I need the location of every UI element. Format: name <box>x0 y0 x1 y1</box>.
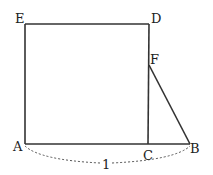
label-C: C <box>143 148 153 163</box>
dimension-arc-left <box>25 146 100 163</box>
geometry-diagram: E D F A C B 1 <box>0 0 213 175</box>
segment-DC <box>148 24 149 144</box>
label-A: A <box>12 139 23 154</box>
label-B: B <box>190 141 200 156</box>
label-D: D <box>151 11 161 26</box>
length-label: 1 <box>102 157 110 172</box>
label-F: F <box>150 52 159 67</box>
segment-FB <box>149 65 190 144</box>
label-E: E <box>15 11 25 26</box>
